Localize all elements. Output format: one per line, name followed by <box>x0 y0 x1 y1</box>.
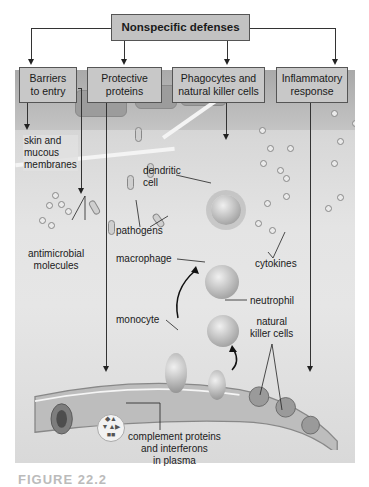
figure-caption: FIGURE 22.2 <box>18 472 107 487</box>
